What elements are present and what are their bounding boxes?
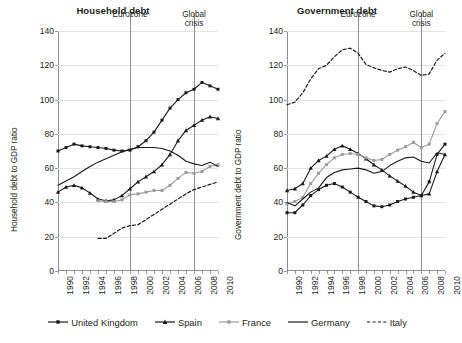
data-point xyxy=(193,88,196,91)
panel-title-government-debt: Government debt xyxy=(237,5,437,16)
y-tick-label: 80 xyxy=(44,130,54,139)
data-point xyxy=(153,131,156,134)
data-point xyxy=(325,163,328,166)
data-point xyxy=(340,144,344,148)
y-tick-label: 140 xyxy=(269,27,283,36)
legend-item-united-kingdom: United Kingdom xyxy=(47,317,138,328)
data-point xyxy=(412,196,415,199)
data-point xyxy=(65,146,68,149)
annotation-label-eurozone: Eurozone xyxy=(341,11,376,20)
data-point xyxy=(193,172,196,175)
data-point xyxy=(113,200,116,203)
x-tick-mark xyxy=(406,271,407,274)
legend-swatch-icon xyxy=(366,317,388,327)
data-point xyxy=(209,84,212,87)
legend-item-germany: Germany xyxy=(287,317,350,328)
data-point xyxy=(293,211,296,214)
data-point xyxy=(365,200,368,203)
data-point xyxy=(325,184,328,187)
x-tick-mark xyxy=(390,271,391,274)
annotation-label-global: Globalcrisis xyxy=(182,11,206,28)
x-tick-mark xyxy=(66,271,67,274)
data-point xyxy=(209,165,212,168)
x-tick-mark xyxy=(218,271,219,274)
x-tick-mark xyxy=(287,271,288,274)
y-tick-label: 120 xyxy=(269,61,283,70)
data-point xyxy=(97,146,100,149)
y-tick-label: 100 xyxy=(40,95,54,104)
y-tick-label: 60 xyxy=(273,164,283,173)
data-point xyxy=(121,198,124,201)
legend-item-france: France xyxy=(218,317,271,328)
legend-label: United Kingdom xyxy=(71,317,138,328)
data-point xyxy=(357,153,360,156)
x-tick-label: 2000 xyxy=(374,276,382,295)
x-tick-label: 1998 xyxy=(130,276,138,295)
data-point xyxy=(169,107,172,110)
chart-panels: Household debt Household debt to GDP rat… xyxy=(0,0,454,306)
series-line-germany xyxy=(58,148,218,186)
data-point xyxy=(357,196,360,199)
data-point xyxy=(372,204,375,207)
x-tick-mark xyxy=(295,271,296,274)
x-tick-mark xyxy=(445,271,446,274)
y-tick-label: 20 xyxy=(44,232,54,241)
x-tick-mark xyxy=(82,271,83,274)
data-point xyxy=(161,119,164,122)
data-point xyxy=(81,144,84,147)
data-point xyxy=(97,199,100,202)
panel-government-debt: Government debt Government debt to GDP r… xyxy=(227,0,454,306)
data-point xyxy=(169,184,172,187)
x-tick-label: 2000 xyxy=(146,276,154,295)
legend-label: Spain xyxy=(178,317,202,328)
x-tick-mark xyxy=(202,271,203,274)
x-tick-mark xyxy=(374,271,375,274)
plot-area-government-debt: 0204060801001201401990199219941996199820… xyxy=(287,31,445,271)
data-point xyxy=(388,204,391,207)
x-tick-label: 1992 xyxy=(311,276,319,295)
data-point xyxy=(201,81,204,84)
x-tick-mark xyxy=(334,271,335,274)
series-line-spain xyxy=(287,146,445,196)
y-axis-label-household-debt: Household debt to GDP ratio xyxy=(10,127,19,232)
x-tick-mark xyxy=(319,271,320,274)
y-tick-label: 0 xyxy=(49,267,54,276)
x-tick-mark xyxy=(421,271,422,274)
data-point xyxy=(317,172,320,175)
x-tick-mark xyxy=(303,271,304,274)
x-tick-label: 2006 xyxy=(194,276,202,295)
x-tick-mark xyxy=(106,271,107,274)
y-tick-label: 100 xyxy=(269,95,283,104)
data-point xyxy=(161,189,164,192)
legend-item-italy: Italy xyxy=(366,317,407,328)
series-line-france xyxy=(98,165,218,202)
data-point xyxy=(129,193,132,196)
data-point xyxy=(396,200,399,203)
x-tick-label: 2006 xyxy=(422,276,430,295)
x-tick-mark xyxy=(130,271,131,274)
legend-swatch-icon xyxy=(287,317,309,327)
x-tick-mark xyxy=(122,271,123,274)
data-point xyxy=(420,146,423,149)
data-point xyxy=(153,189,156,192)
data-point xyxy=(404,198,407,201)
y-tick-label: 0 xyxy=(278,267,283,276)
x-tick-mark xyxy=(162,271,163,274)
x-tick-mark xyxy=(114,271,115,274)
data-point xyxy=(201,170,204,173)
data-point xyxy=(349,191,352,194)
x-tick-mark xyxy=(413,271,414,274)
x-tick-mark xyxy=(398,271,399,274)
x-tick-label: 1996 xyxy=(114,276,122,295)
x-tick-label: 2004 xyxy=(178,276,186,295)
y-axis-label-government-debt: Government debt to GDP ratio xyxy=(234,130,243,240)
x-tick-label: 2002 xyxy=(390,276,398,295)
x-tick-mark xyxy=(138,271,139,274)
x-tick-label: 1992 xyxy=(82,276,90,295)
plot-area-household-debt: 0204060801001201401990199219941996199820… xyxy=(58,31,218,271)
data-point xyxy=(365,156,368,159)
data-point xyxy=(185,171,188,174)
data-point xyxy=(73,143,76,146)
x-tick-mark xyxy=(429,271,430,274)
x-tick-mark xyxy=(194,271,195,274)
